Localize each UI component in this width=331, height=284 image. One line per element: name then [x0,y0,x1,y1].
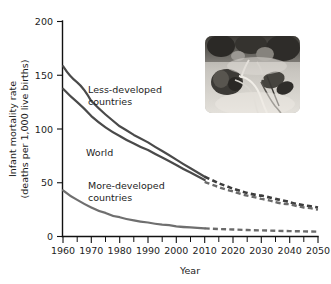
series-label-more-developed-line2: countries [88,192,132,203]
x-axis-minor-ticks [77,237,304,243]
x-tick-label-1970: 1970 [79,245,103,256]
series-more-developed-countries-solid [63,190,205,228]
y-tick-label-0: 0 [47,231,53,242]
series-label-world: World [86,147,113,158]
x-tick-label-1980: 1980 [108,245,132,256]
series-less-developed-countries-solid [63,66,205,177]
infant-photo-inset [205,36,300,113]
x-tick-label-2010: 2010 [193,245,217,256]
x-tick-label-2050: 2050 [306,245,330,256]
series-label-less-developed-line2: countries [88,96,132,107]
x-tick-label-2030: 2030 [249,245,273,256]
x-tick-label-1960: 1960 [51,245,75,256]
series-more-developed-countries-projection [205,228,318,231]
x-tick-label-2000: 2000 [164,245,188,256]
y-axis-title-line1: Infant mortality rate [7,81,18,177]
y-tick-label-100: 100 [35,124,53,135]
series-label-less-developed-line1: Less-developed [88,84,162,95]
y-axis-title-line2: (deaths per 1,000 live births) [19,60,30,199]
y-tick-label-150: 150 [35,70,53,81]
x-axis-title: Year [179,265,200,276]
series-less-developed-countries-projection [205,177,318,208]
y-tick-label-200: 200 [35,16,53,27]
x-tick-label-2040: 2040 [278,245,302,256]
chart-container: 0 50 100 150 200 [0,0,331,284]
x-tick-label-1990: 1990 [136,245,160,256]
infant-photo-image [205,36,300,113]
series-label-more-developed-line1: More-developed [88,180,165,191]
x-tick-label-2020: 2020 [221,245,245,256]
y-tick-label-50: 50 [41,177,53,188]
y-axis-ticks [57,22,63,237]
